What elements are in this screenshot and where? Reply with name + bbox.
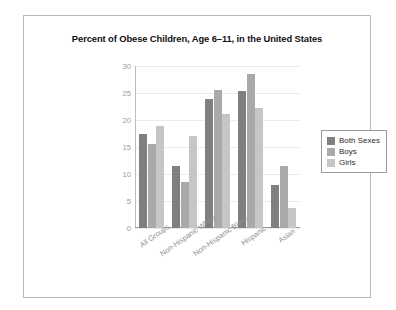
legend-swatch-icon	[327, 148, 335, 156]
bar[interactable]	[238, 91, 246, 228]
bar-group	[267, 66, 300, 228]
bar[interactable]	[280, 166, 288, 228]
y-axis-tick-label: 20	[123, 116, 131, 125]
chart-card: Percent of Obese Children, Age 6–11, in …	[23, 15, 371, 298]
legend-label: Girls	[339, 158, 355, 167]
bar[interactable]	[255, 108, 263, 228]
bar[interactable]	[222, 114, 230, 228]
y-axis-tick-label: 15	[123, 143, 131, 152]
bar[interactable]	[205, 99, 213, 228]
x-axis-tick-label: Hispanic	[239, 224, 267, 248]
x-axis-tick: Hispanic	[234, 228, 267, 288]
bar[interactable]	[172, 166, 180, 228]
chart-legend: Both SexesBoysGirls	[321, 130, 387, 173]
y-axis-tick-label: 25	[123, 89, 131, 98]
legend-item[interactable]: Girls	[327, 157, 380, 168]
x-axis-tick-label: Asian	[276, 227, 296, 245]
legend-item[interactable]: Boys	[327, 146, 380, 157]
bar[interactable]	[181, 182, 189, 228]
bars-layer	[135, 66, 300, 228]
x-axis-category-labels: All GroupsNon-Hispanic WhiteNon-Hispanic…	[135, 228, 300, 288]
y-axis-tick-label: 10	[123, 170, 131, 179]
legend-label: Both Sexes	[339, 136, 380, 145]
bar[interactable]	[271, 185, 279, 228]
legend-label: Boys	[339, 147, 357, 156]
x-axis-tick: Asian	[267, 228, 300, 288]
bar[interactable]	[156, 126, 164, 228]
plot-area: 051015202530	[135, 66, 300, 228]
legend-item[interactable]: Both Sexes	[327, 135, 380, 146]
bar-group	[234, 66, 267, 228]
bar[interactable]	[148, 144, 156, 228]
y-axis-tick-label: 0	[127, 224, 131, 233]
bar-group	[201, 66, 234, 228]
y-axis-tick-label: 5	[127, 197, 131, 206]
plot-wrapper: 051015202530 All GroupsNon-Hispanic Whit…	[24, 16, 370, 297]
bar[interactable]	[247, 74, 255, 228]
legend-swatch-icon	[327, 137, 335, 145]
bar-group	[168, 66, 201, 228]
bar-group	[135, 66, 168, 228]
bar[interactable]	[189, 136, 197, 228]
bar[interactable]	[214, 90, 222, 228]
x-axis-tick: Non-Hispanic Black	[201, 228, 234, 288]
legend-swatch-icon	[327, 159, 335, 167]
y-axis-tick-label: 30	[123, 62, 131, 71]
bar[interactable]	[139, 134, 147, 228]
bar[interactable]	[288, 208, 296, 228]
